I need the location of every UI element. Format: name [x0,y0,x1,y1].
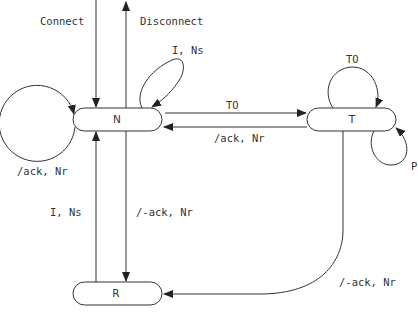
edge-t-self-to [328,67,378,108]
label-t-to-n: /ack, Nr [214,132,265,144]
node-n: N [73,108,162,131]
node-t: T [307,108,396,131]
label-n-to-t: TO [226,99,239,111]
node-r-label: R [112,287,119,299]
label-r-to-n: I, Ns [50,206,82,218]
label-n-self-ack: /ack, Nr [17,165,68,177]
state-diagram: N T R Connect Disconnect I, Ns /ack, Nr … [0,0,418,328]
node-r: R [73,282,162,305]
label-connect: Connect [40,15,84,27]
label-t-self-to: TO [346,53,359,65]
node-n-label: N [113,113,121,125]
label-t-self-p: P [411,160,417,172]
label-n-self-ins: I, Ns [172,44,204,56]
edge-n-self-ins [140,59,183,108]
label-t-to-r: /-ack, Nr [339,276,396,288]
edge-t-self-p [371,128,407,165]
label-n-to-r: /-ack, Nr [136,206,193,218]
label-disconnect: Disconnect [140,15,203,27]
node-t-label: T [348,113,356,125]
edge-n-self-ack [0,85,75,161]
